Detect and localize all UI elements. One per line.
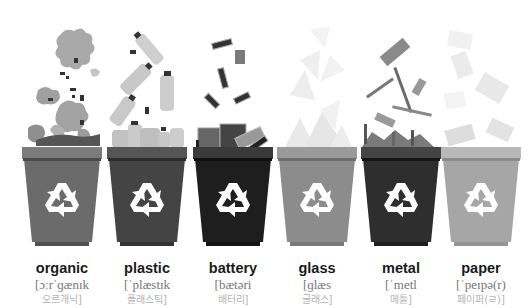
bin-rim [107, 147, 187, 159]
bin-korean: 플래스틱] [97, 293, 197, 307]
bin-band [23, 158, 101, 161]
bin-word: paper [431, 260, 531, 277]
metal-waste [362, 38, 434, 147]
bin-body [363, 159, 439, 242]
bin-korean: 페이퍼(ㄹ)] [431, 293, 531, 307]
glass-waste [285, 26, 352, 147]
battery-waste [196, 39, 268, 153]
bin-band [442, 158, 520, 161]
bin-base [120, 242, 174, 246]
bin-label-paper: paper [ˈpeɪpə(r) 페이퍼(ㄹ)] [431, 258, 531, 307]
bin-band [194, 158, 272, 161]
bin-base [374, 242, 428, 246]
bin-body [109, 159, 185, 242]
bin-phonetic: [ˈplæstɪk [97, 277, 197, 293]
bin-base [454, 242, 508, 246]
bin-paper [441, 147, 521, 246]
bin-body [279, 159, 355, 242]
bin-phonetic: [ˈpeɪpə(r) [431, 277, 531, 293]
bin-word: plastic [97, 260, 197, 277]
bin-base [35, 242, 89, 246]
bin-rim [22, 147, 102, 159]
bin-plastic [107, 147, 187, 246]
recycling-scene [0, 0, 532, 258]
bin-battery [193, 147, 273, 246]
bin-rim [277, 147, 357, 159]
organic-waste [28, 28, 100, 146]
bin-glass [277, 147, 357, 246]
bin-body [443, 159, 519, 242]
bin-label-plastic: plastic [ˈplæstɪk 플래스틱] [97, 258, 197, 307]
bin-band [108, 158, 186, 161]
plastic-waste [108, 29, 184, 148]
bin-rim [361, 147, 441, 159]
bin-rim [441, 147, 521, 159]
bin-rim [193, 147, 273, 159]
bin-body [195, 159, 271, 242]
bin-band [278, 158, 356, 161]
bin-metal [361, 147, 441, 246]
bin-base [206, 242, 260, 246]
bin-body [24, 159, 100, 242]
bin-base [290, 242, 344, 246]
bins-layer [22, 147, 521, 246]
paper-waste [444, 30, 514, 146]
bin-band [362, 158, 440, 161]
bin-organic [22, 147, 102, 246]
